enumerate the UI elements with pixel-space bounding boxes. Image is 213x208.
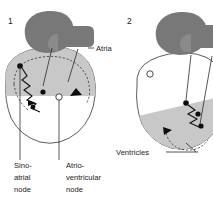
panel-2-sa-node: [147, 71, 153, 77]
panel-2-vessel-arm: [189, 25, 213, 48]
atrio-ventricular-node-label-line2: ventricular: [66, 173, 101, 182]
panel-2-path-dot-a: [195, 111, 200, 116]
panel-1-vessel-arm: [56, 26, 94, 47]
panel-1-path-dot-a: [40, 89, 45, 94]
sino-atrial-node-label-line3: node: [14, 185, 31, 194]
panel-1-number: 1: [8, 16, 13, 26]
sino-atrial-node-label-line2: atrial: [14, 173, 31, 182]
figure-root: 1: [0, 0, 213, 208]
sino-atrial-node-label-group: Sino- atrial node: [14, 161, 32, 194]
panel-1-av-node: [56, 94, 62, 100]
panel-1-path-dot-b: [31, 105, 36, 110]
panel-2-number: 2: [127, 16, 132, 26]
atria-label: Atria: [96, 44, 112, 53]
heart-conduction-figure: 1: [0, 0, 213, 208]
panel-2-path-dot-b: [198, 123, 203, 128]
panel-2: 2: [127, 12, 213, 170]
ventricles-label: Ventricles: [116, 148, 149, 157]
panel-1: 1: [0, 11, 110, 160]
atrio-ventricular-node-label-line3: node: [66, 185, 83, 194]
sino-atrial-node-label-line1: Sino-: [14, 161, 32, 170]
panel-2-av-node: [183, 100, 189, 106]
atrio-ventricular-node-label-group: Atrio- ventricular node: [66, 161, 101, 194]
atrio-ventricular-node-label-line1: Atrio-: [66, 161, 85, 170]
